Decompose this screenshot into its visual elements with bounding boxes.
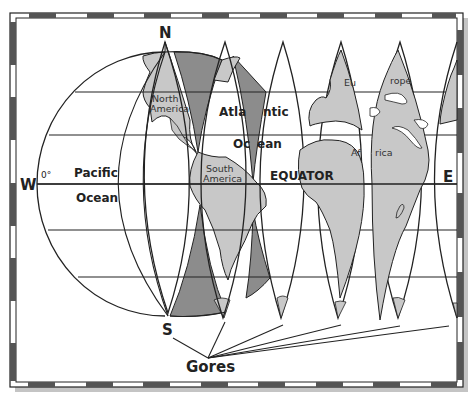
north-america-label-2: America <box>150 103 189 114</box>
west-label: W <box>20 176 37 194</box>
atlantic-label-1: Atla <box>219 105 246 119</box>
europe-label-1: Eu <box>344 77 356 88</box>
europe-label-2: rope <box>390 75 412 86</box>
africa-label-2: rica <box>375 147 393 158</box>
east-label: E <box>443 168 453 186</box>
south-america-label-2: America <box>203 173 242 184</box>
equator-label: EQUATOR <box>270 169 334 183</box>
africa-label-1: Af <box>351 147 361 158</box>
gores-label: Gores <box>186 358 235 376</box>
north-label: N <box>159 24 172 42</box>
south-label: S <box>162 321 173 339</box>
pacific-label-1: Pacific <box>74 166 118 180</box>
pacific-label-2: Ocean <box>76 191 118 205</box>
prime-meridian-label: 0° <box>41 170 51 180</box>
globe-gores-diagram: N S W E 0° EQUATOR Pacific Ocean Atla nt… <box>0 0 473 400</box>
atlantic-ocean-label-1: Oc <box>233 137 250 151</box>
atlantic-ocean-label-2: ean <box>257 137 282 151</box>
atlantic-label-2: ntic <box>263 105 289 119</box>
